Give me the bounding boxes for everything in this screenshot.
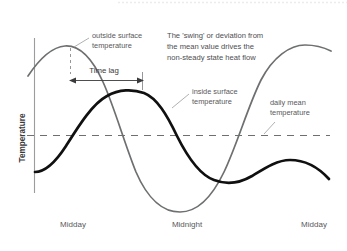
outside-surface-curve	[28, 45, 331, 212]
daily-mean-label-leader	[264, 122, 275, 134]
inside-label-line2: temperature	[192, 97, 232, 106]
swing-note-line1: The 'swing' or deviation from	[167, 31, 263, 40]
swing-note-line3: non-steady state heat flow	[167, 53, 256, 62]
time-lag-arrow-left-head	[69, 78, 76, 84]
daily-mean-label-line2: temperature	[270, 108, 310, 117]
swing-note-line2: the mean value drives the	[167, 42, 254, 51]
diagram-canvas: Time lag outside surface temperature The…	[0, 0, 347, 251]
x-tick-label-midnight: Midnight	[172, 220, 203, 229]
time-lag-measure	[69, 78, 144, 84]
y-axis-label: Temperature	[18, 113, 27, 162]
outside-label-line1: outside surface	[92, 31, 142, 40]
daily-mean-label-line1: daily mean	[270, 98, 306, 107]
inside-label-line1: inside surface	[192, 87, 238, 96]
x-tick-label-midday-right: Midday	[301, 220, 327, 229]
outside-label-leader	[74, 38, 89, 47]
inside-label-leader	[172, 94, 189, 108]
temperature-swing-diagram: Time lag outside surface temperature The…	[0, 0, 347, 251]
time-lag-label: Time lag	[89, 66, 119, 75]
x-tick-label-midday-left: Midday	[60, 220, 86, 229]
outside-label-line2: temperature	[92, 41, 132, 50]
